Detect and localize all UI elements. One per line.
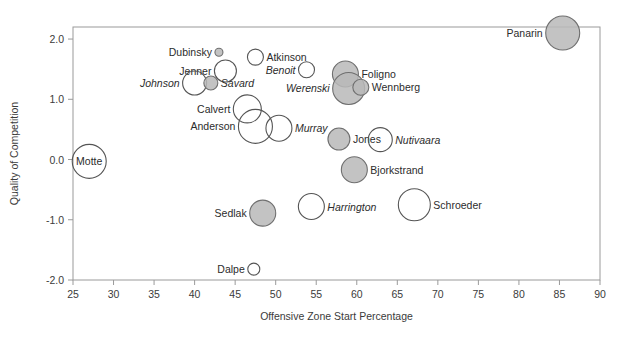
point-label-panarin: Panarin (507, 27, 543, 39)
bubble-murray (266, 115, 292, 141)
point-label-sedlak: Sedlak (215, 207, 248, 219)
point-label-nutivaara: Nutivaara (395, 134, 440, 146)
point-label-harrington: Harrington (327, 201, 376, 213)
x-tick-label: 90 (594, 288, 606, 300)
x-tick-label: 30 (108, 288, 120, 300)
data-point: Murray (266, 115, 328, 141)
data-point: Motte (72, 144, 106, 178)
point-label-motte: Motte (76, 155, 102, 167)
bubble-nutivaara (368, 128, 392, 152)
point-label-foligno: Foligno (361, 68, 396, 80)
data-point: Wennberg (353, 79, 420, 95)
data-point: Dubinsky (169, 46, 223, 58)
y-tick-label: -2.0 (46, 274, 64, 286)
x-tick-label: 70 (432, 288, 444, 300)
data-point: Benoit (266, 62, 315, 78)
point-label-anderson: Anderson (190, 120, 235, 132)
bubble-savard (204, 76, 218, 90)
data-point: Schroeder (398, 189, 482, 221)
point-label-dubinsky: Dubinsky (169, 46, 213, 58)
x-tick-label: 25 (67, 288, 79, 300)
point-label-johnson: Johnson (139, 77, 180, 89)
bubble-wennberg (353, 79, 369, 95)
bubble-panarin (546, 16, 580, 50)
y-tick-label: -1.0 (46, 214, 64, 226)
point-label-murray: Murray (295, 122, 328, 134)
bubble-harrington (298, 194, 324, 220)
x-tick-label: 50 (270, 288, 282, 300)
x-tick-label: 85 (554, 288, 566, 300)
point-label-benoit: Benoit (266, 64, 297, 76)
x-tick-label: 80 (513, 288, 525, 300)
y-axis-title: Quality of Competition (8, 102, 20, 205)
bubble-bjorkstrand (341, 157, 367, 183)
bubble-benoit (299, 62, 315, 78)
bubble-jones (328, 128, 350, 150)
point-label-wennberg: Wennberg (372, 81, 420, 93)
y-tick-label: 0.0 (49, 154, 64, 166)
x-axis-title: Offensive Zone Start Percentage (260, 310, 413, 322)
scatter-plot-figure: 25303540455055606570758085902.01.00.0-1.… (0, 0, 620, 345)
x-tick-label: 60 (351, 288, 363, 300)
x-tick-label: 45 (229, 288, 241, 300)
x-tick-label: 55 (310, 288, 322, 300)
data-point: Atkinson (247, 49, 306, 65)
point-label-savard: Savard (221, 77, 255, 89)
bubble-johnson (183, 71, 207, 95)
bubble-sedlak (250, 200, 276, 226)
point-label-bjorkstrand: Bjorkstrand (370, 164, 423, 176)
x-tick-label: 40 (189, 288, 201, 300)
x-tick-label: 75 (473, 288, 485, 300)
point-label-werenski: Werenski (286, 82, 330, 94)
chart-canvas: 25303540455055606570758085902.01.00.0-1.… (0, 0, 620, 345)
y-tick-label: 1.0 (49, 93, 64, 105)
data-point: Dalpe (217, 263, 259, 275)
data-point: Sedlak (215, 200, 276, 226)
data-point: Savard (204, 76, 255, 90)
bubble-schroeder (398, 189, 430, 221)
point-label-dalpe: Dalpe (217, 263, 245, 275)
data-point: Johnson (139, 71, 207, 95)
data-point: Nutivaara (368, 128, 440, 152)
point-label-atkinson: Atkinson (266, 51, 306, 63)
y-tick-label: 2.0 (49, 33, 64, 45)
data-point: Harrington (298, 194, 376, 220)
x-tick-label: 35 (148, 288, 160, 300)
bubble-dalpe (248, 263, 260, 275)
point-label-calvert: Calvert (197, 103, 230, 115)
data-point: Bjorkstrand (341, 157, 423, 183)
data-point: Panarin (507, 16, 580, 50)
point-label-schroeder: Schroeder (433, 199, 482, 211)
x-tick-label: 65 (391, 288, 403, 300)
bubble-atkinson (247, 49, 263, 65)
bubble-dubinsky (215, 48, 223, 56)
